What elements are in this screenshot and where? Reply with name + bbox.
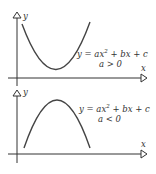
y-axis-arrow-icon xyxy=(13,12,21,18)
x-axis-label: x xyxy=(141,63,146,73)
y-axis-arrow-icon xyxy=(13,90,21,96)
x-axis-arrow-icon xyxy=(141,150,147,158)
y-axis-label: y xyxy=(22,11,28,21)
quadratic-diagram: y x y = ax2 + bx + c a > 0 y x y = ax2 +… xyxy=(0,0,156,174)
condition-label: a > 0 xyxy=(99,59,123,69)
condition-label: a < 0 xyxy=(98,114,122,124)
x-axis-arrow-icon xyxy=(141,74,147,82)
graph-upward-parabola: y x y = ax2 + bx + c a > 0 xyxy=(8,11,148,86)
equation-label: y = ax2 + bx + c xyxy=(76,48,148,59)
x-axis-label: x xyxy=(141,139,146,149)
graph-downward-parabola: y x y = ax2 + bx + c a < 0 xyxy=(8,87,150,163)
equation-label: y = ax2 + bx + c xyxy=(78,103,150,114)
y-axis-label: y xyxy=(22,87,28,97)
parabola-curve xyxy=(22,22,90,70)
